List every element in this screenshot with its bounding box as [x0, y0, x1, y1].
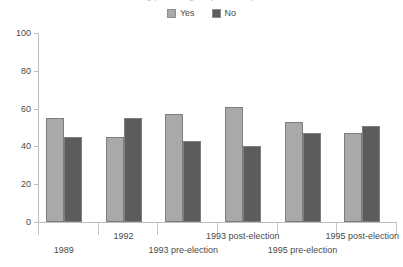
bar-group [344, 33, 380, 222]
bar-no [183, 141, 201, 222]
bar-no [243, 146, 261, 222]
x-axis-label: 1992 [113, 231, 133, 241]
y-tick-label: 100 [16, 29, 31, 38]
legend-swatch-icon [212, 9, 221, 18]
bar-no [124, 118, 142, 222]
bar-no [64, 137, 82, 222]
x-axis-label: 1995 pre-election [268, 245, 338, 255]
x-axis-label: 1995 post-election [325, 231, 399, 241]
x-tick-mark [38, 222, 39, 235]
plot-area: 020406080100 [38, 33, 396, 222]
y-tick-label: 20 [21, 180, 31, 189]
x-axis-label: 1989 [54, 245, 74, 255]
bar-group [106, 33, 142, 222]
y-tick-mark [34, 184, 38, 185]
legend-item: No [212, 9, 237, 18]
bar-yes [344, 133, 362, 222]
legend-swatch-icon [167, 9, 176, 18]
bar-no [362, 126, 380, 222]
y-axis-line [38, 33, 39, 222]
bar-yes [285, 122, 303, 222]
x-tick-mark [157, 222, 158, 235]
y-tick-mark [34, 109, 38, 110]
y-tick-label: 0 [26, 218, 31, 227]
x-tick-mark [98, 222, 99, 235]
y-tick-label: 60 [21, 104, 31, 113]
y-tick-label: 80 [21, 66, 31, 75]
bar-group [225, 33, 261, 222]
bar-group [46, 33, 82, 222]
bar-yes [106, 137, 124, 222]
y-tick-label: 40 [21, 142, 31, 151]
bar-yes [225, 107, 243, 222]
bar-group [165, 33, 201, 222]
chart-title: Voting percentages by election period [0, 0, 403, 1]
y-tick-mark [34, 71, 38, 72]
bar-yes [165, 114, 183, 222]
bar-yes [46, 118, 64, 222]
bar-group [285, 33, 321, 222]
x-axis-label: 1993 post-election [206, 231, 280, 241]
legend-item: Yes [167, 9, 195, 18]
y-tick-mark [34, 146, 38, 147]
x-axis-label: 1993 pre-election [148, 245, 218, 255]
chart-legend: YesNo [0, 7, 403, 19]
legend-item-label: Yes [180, 9, 195, 18]
legend-item-label: No [225, 9, 237, 18]
bar-no [303, 133, 321, 222]
y-tick-mark [34, 33, 38, 34]
